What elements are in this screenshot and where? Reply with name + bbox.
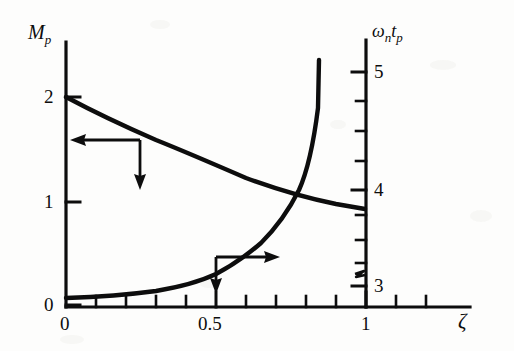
right-axis-tick-label-5: 5 bbox=[374, 62, 384, 81]
bottom-axis-tick-label-0p5: 0.5 bbox=[198, 314, 222, 333]
right-axis-title-subscript-p: p bbox=[396, 30, 403, 45]
left-axis-tick-label-0: 0 bbox=[44, 295, 54, 314]
right-axis-title: ωntp bbox=[372, 22, 403, 44]
right-axis-tick-label-3: 3 bbox=[374, 276, 384, 295]
right-axis-tick-label-4: 4 bbox=[374, 180, 384, 199]
left-axis-title-main: M bbox=[28, 21, 45, 43]
bottom-axis-tick-label-0: 0 bbox=[60, 314, 70, 333]
curve-omega-n-tp bbox=[66, 60, 319, 298]
left-axis-tick-label-1: 1 bbox=[44, 192, 54, 211]
left-axis-tick-label-2: 2 bbox=[44, 87, 54, 106]
bottom-axis-title: ζ bbox=[458, 311, 467, 332]
left-axis-title: Mp bbox=[28, 22, 51, 46]
bottom-axis-tick-label-1: 1 bbox=[361, 314, 371, 333]
plot-area bbox=[0, 0, 514, 351]
left-axis-title-subscript: p bbox=[45, 32, 52, 47]
curve-mp bbox=[66, 97, 365, 209]
figure-canvas: Mp 2 1 0 ωntp 5 4 3 0 0.5 1 ζ bbox=[0, 0, 514, 351]
bottom-axis-minor-ticks bbox=[96, 296, 426, 307]
right-axis-title-omega: ω bbox=[372, 21, 385, 41]
right-axis-scale-break bbox=[355, 271, 365, 277]
left-axis-pointer-annotation bbox=[70, 134, 146, 190]
